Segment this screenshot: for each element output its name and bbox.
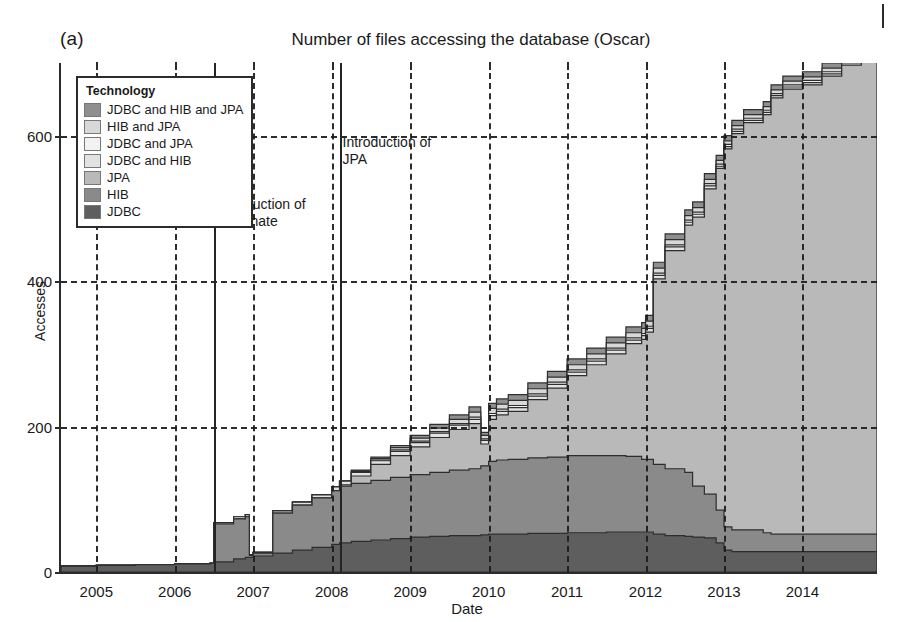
x-tick-mark — [489, 62, 491, 70]
y-tick-mark — [55, 281, 67, 283]
x-tick-mark — [802, 62, 804, 70]
x-tick-mark — [175, 62, 177, 70]
legend-swatch — [84, 137, 101, 151]
gridline-horizontal — [61, 427, 877, 429]
legend-label: HIB — [107, 187, 129, 202]
x-tick-label: 2012 — [629, 583, 662, 600]
y-tick-label: 600 — [27, 127, 52, 144]
legend-label: JDBC and JPA — [107, 136, 193, 151]
x-tick-label: 2014 — [786, 583, 819, 600]
event-line — [340, 63, 342, 572]
x-tick-mark — [410, 62, 412, 70]
x-tick-mark — [332, 62, 334, 70]
legend-box: Technology JDBC and HIB and JPAHIB and J… — [76, 76, 253, 228]
legend-item: HIB — [84, 186, 243, 203]
x-tick-mark — [646, 62, 648, 70]
x-tick-label: 2010 — [472, 583, 505, 600]
chart-title: Number of files accessing the database (… — [0, 30, 902, 50]
y-tick-label: 400 — [27, 273, 52, 290]
legend-item: JDBC and HIB and JPA — [84, 101, 243, 118]
x-tick-label: 2008 — [315, 583, 348, 600]
x-tick-mark — [96, 62, 98, 70]
legend-item: JDBC — [84, 203, 243, 220]
legend-label: JPA — [107, 170, 130, 185]
gridline-vertical — [724, 63, 726, 572]
legend-swatch — [84, 154, 101, 168]
gridline-horizontal — [61, 281, 877, 283]
legend-item: JDBC and HIB — [84, 152, 243, 169]
legend-label: JDBC and HIB — [107, 153, 192, 168]
x-tick-mark — [724, 62, 726, 70]
legend-label: HIB and JPA — [107, 119, 180, 134]
page-edge-rule — [882, 4, 884, 28]
y-tick-mark — [55, 572, 67, 574]
y-tick-mark — [55, 136, 67, 138]
x-tick-label: 2006 — [158, 583, 191, 600]
legend-swatch — [84, 120, 101, 134]
legend-item: JPA — [84, 169, 243, 186]
gridline-vertical — [567, 63, 569, 572]
y-tick-label: 0 — [44, 564, 52, 581]
legend-label: JDBC and HIB and JPA — [107, 102, 243, 117]
x-tick-label: 2007 — [237, 583, 270, 600]
legend-title: Technology — [86, 84, 243, 98]
gridline-vertical — [332, 63, 334, 572]
legend-label: JDBC — [107, 204, 141, 219]
x-tick-label: 2009 — [393, 583, 426, 600]
x-tick-label: 2011 — [551, 583, 583, 600]
x-tick-label: 2013 — [707, 583, 740, 600]
y-tick-label: 200 — [27, 418, 52, 435]
gridline-vertical — [253, 63, 255, 572]
gridline-vertical — [802, 63, 804, 572]
gridline-vertical — [646, 63, 648, 572]
x-tick-mark — [567, 62, 569, 70]
legend-swatch — [84, 103, 101, 117]
legend-swatch — [84, 171, 101, 185]
event-annotation: Introduction of JPA — [343, 134, 432, 168]
y-axis-title: Accesses — [32, 281, 48, 341]
gridline-vertical — [489, 63, 491, 572]
y-tick-mark — [55, 427, 67, 429]
legend-swatch — [84, 188, 101, 202]
legend-swatch — [84, 205, 101, 219]
legend-item: JDBC and JPA — [84, 135, 243, 152]
x-tick-mark — [253, 62, 255, 70]
legend-item: HIB and JPA — [84, 118, 243, 135]
figure-root: (a) Number of files accessing the databa… — [0, 0, 902, 622]
x-axis-title: Date — [59, 600, 875, 617]
legend-rows: JDBC and HIB and JPAHIB and JPAJDBC and … — [84, 101, 243, 220]
x-tick-label: 2005 — [80, 583, 113, 600]
